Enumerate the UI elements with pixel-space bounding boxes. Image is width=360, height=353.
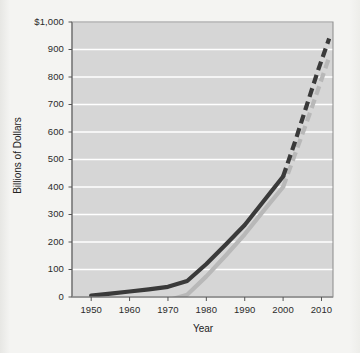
x-tick-label: 1990 xyxy=(225,304,265,315)
y-axis-title: Billions of Dollars xyxy=(12,101,23,211)
chart-page: 0100200300400500600700800900$1,000 19501… xyxy=(0,0,360,353)
x-tick-label: 1950 xyxy=(71,304,111,315)
y-tick-label: 100 xyxy=(16,263,64,274)
y-tick-label: 800 xyxy=(16,71,64,82)
line-chart-figure: 0100200300400500600700800900$1,000 19501… xyxy=(0,0,360,353)
y-tick-label: 700 xyxy=(16,98,64,109)
y-tick-label: 400 xyxy=(16,181,64,192)
y-tick-label: 600 xyxy=(16,126,64,137)
y-tick-label: 200 xyxy=(16,236,64,247)
x-tick-label: 1980 xyxy=(186,304,226,315)
y-tick-label: 500 xyxy=(16,153,64,164)
x-tick-label: 1970 xyxy=(148,304,188,315)
y-tick-label: 0 xyxy=(16,291,64,302)
y-tick-label: 900 xyxy=(16,43,64,54)
y-tick-label: $1,000 xyxy=(16,16,64,27)
x-tick-label: 2000 xyxy=(263,304,303,315)
x-tick-label: 2010 xyxy=(301,304,341,315)
y-tick-label: 300 xyxy=(16,208,64,219)
x-tick-label: 1960 xyxy=(110,304,150,315)
x-axis-title: Year xyxy=(72,323,334,334)
